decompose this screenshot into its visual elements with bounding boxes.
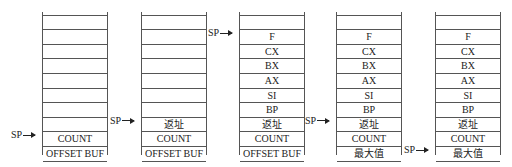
stack-cell [142, 102, 206, 117]
stack-cell [142, 15, 206, 30]
stack-cell [43, 29, 107, 44]
stack-cell: SI [436, 88, 500, 103]
stack-bottom-line [43, 161, 107, 162]
stack-cell [43, 44, 107, 59]
stack-cell: AX [337, 73, 401, 88]
stack-cell [43, 73, 107, 88]
sp-pointer: SP [208, 27, 232, 39]
stack-1: COUNTOFFSET BUF [42, 12, 108, 155]
stack-cell: 返址 [337, 117, 401, 132]
stack-cell: CX [337, 44, 401, 59]
arrow-right-icon [122, 120, 134, 121]
stack-bottom-line [240, 161, 304, 162]
stack-cell: OFFSET BUF [142, 146, 206, 161]
stack-3: FCXBXAXSIBP返址COUNTOFFSET BUF [239, 12, 305, 155]
stack-cell: AX [240, 73, 304, 88]
stack-cell [142, 58, 206, 73]
stack-cell [142, 73, 206, 88]
sp-pointer: SP [404, 144, 428, 156]
stack-cell [43, 102, 107, 117]
stack-cell: F [240, 29, 304, 44]
sp-pointer: SP [110, 115, 134, 127]
stack-cell: COUNT [337, 131, 401, 146]
stack-cell [142, 44, 206, 59]
stack-cell: 最大值 [337, 146, 401, 161]
stack-cell: 最大值 [436, 146, 500, 161]
stack-cell: COUNT [240, 131, 304, 146]
arrow-right-icon [416, 150, 428, 151]
stack-cell: BX [436, 58, 500, 73]
stack-cell: BP [240, 102, 304, 117]
stack-cell [142, 29, 206, 44]
sp-label: SP [404, 144, 415, 156]
stack-cell [43, 15, 107, 30]
sp-label: SP [110, 115, 121, 127]
arrow-right-icon [317, 120, 329, 121]
arrow-right-icon [23, 135, 35, 136]
stack-bottom-line [436, 161, 500, 162]
stack-cell: 返址 [142, 117, 206, 132]
arrow-right-icon [220, 33, 232, 34]
stack-cell: COUNT [43, 131, 107, 146]
stack-4: FCXBXAXSIBP返址COUNT最大值 [336, 12, 402, 155]
stack-cell [142, 88, 206, 103]
stack-cell: SI [240, 88, 304, 103]
stack-cell: 返址 [240, 117, 304, 132]
stack-cell: OFFSET BUF [240, 146, 304, 161]
stack-cell [337, 15, 401, 30]
stack-cell: BX [337, 58, 401, 73]
stack-cell [436, 15, 500, 30]
stack-cell: BX [240, 58, 304, 73]
sp-label: SP [11, 129, 22, 141]
sp-pointer: SP [11, 129, 35, 141]
stack-cell: F [337, 29, 401, 44]
stack-cell: SI [337, 88, 401, 103]
stack-cell [240, 15, 304, 30]
stack-cell: COUNT [436, 131, 500, 146]
sp-label: SP [305, 115, 316, 127]
stack-cell: BP [337, 102, 401, 117]
stack-cell [43, 117, 107, 132]
stack-bottom-line [337, 161, 401, 162]
stack-cell: BP [436, 102, 500, 117]
stack-cell [43, 58, 107, 73]
stack-cell: CX [436, 44, 500, 59]
stack-cell: CX [240, 44, 304, 59]
stack-cell: F [436, 29, 500, 44]
stack-bottom-line [142, 161, 206, 162]
sp-pointer: SP [305, 115, 329, 127]
stack-cell: OFFSET BUF [43, 146, 107, 161]
sp-label: SP [208, 27, 219, 39]
stack-cell: 返址 [436, 117, 500, 132]
stack-2: 返址COUNTOFFSET BUF [141, 12, 207, 155]
stack-cell: COUNT [142, 131, 206, 146]
stack-cell [43, 88, 107, 103]
stack-cell: AX [436, 73, 500, 88]
stack-5: FCXBXAXSIBP返址COUNT最大值 [435, 12, 501, 155]
